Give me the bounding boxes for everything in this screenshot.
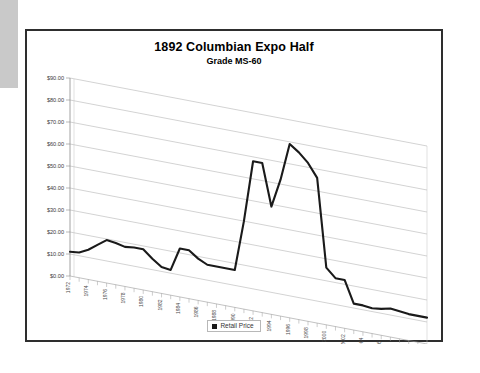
x-axis-tick-label: 1984 <box>175 303 181 314</box>
chart-legend: Retail Price <box>27 320 441 332</box>
x-axis-tick-label: 2000 <box>321 331 327 342</box>
x-axis-tick-label: 1986 <box>193 306 199 317</box>
x-axis-tick-label: 1982 <box>157 299 163 310</box>
x-axis-tick-label: 2004 <box>358 338 364 344</box>
x-axis-tick-label: 2006 <box>376 341 382 344</box>
y-axis-tick-label: $60.00 <box>47 141 64 147</box>
legend-label-retail-price: Retail Price <box>220 322 253 330</box>
y-axis-tick-label: $70.00 <box>47 119 64 125</box>
x-axis-tick-label: 1980 <box>138 296 144 307</box>
y-axis-tick-label: $20.00 <box>47 229 64 235</box>
series-line-retail-price <box>70 144 427 318</box>
x-axis-tick-label: 1976 <box>102 289 108 300</box>
legend-box: Retail Price <box>207 320 260 332</box>
y-axis-tick-label: $30.00 <box>47 207 64 213</box>
y-axis-tick-label: $0.00 <box>50 273 64 279</box>
scan-edge-band <box>0 0 18 88</box>
x-axis-tick-label: 2002 <box>340 334 346 344</box>
x-axis-tick-label: 1972 <box>65 282 71 293</box>
y-axis-tick-label: $40.00 <box>47 185 64 191</box>
plot-area: $0.00$10.00$20.00$30.00$40.00$50.00$60.0… <box>27 31 445 344</box>
y-axis-tick-label: $50.00 <box>47 163 64 169</box>
y-axis-tick-label: $10.00 <box>47 251 64 257</box>
retail-price-swatch <box>212 324 217 329</box>
chart-frame: 1892 Columbian Expo Half Grade MS-60 $0.… <box>25 29 443 342</box>
chart-canvas: 1892 Columbian Expo Half Grade MS-60 $0.… <box>27 31 441 340</box>
x-axis-tick-label: 1978 <box>120 292 126 303</box>
y-axis-tick-label: $80.00 <box>47 97 64 103</box>
x-axis-tick-label: 1974 <box>83 285 89 296</box>
y-axis-tick-label: $90.00 <box>47 75 64 81</box>
